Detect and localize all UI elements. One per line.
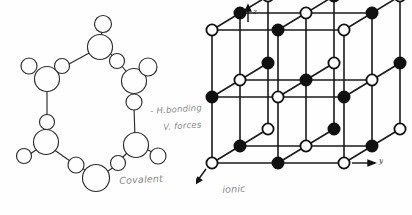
axis-label-z: z — [253, 8, 257, 16]
cation — [366, 7, 377, 18]
hydrogen-atom — [68, 157, 84, 173]
cation — [234, 7, 245, 18]
hydrogen-atom — [40, 115, 55, 130]
anion — [300, 140, 311, 151]
axis-label-y: y — [379, 157, 383, 165]
hydrogen-atom — [55, 59, 70, 74]
axis-label-x: x — [196, 176, 200, 184]
y-axis-arrowhead — [368, 160, 375, 165]
anion — [234, 74, 245, 85]
hydrogen-atom — [110, 54, 125, 69]
cation — [206, 91, 217, 102]
hydrogen-atom — [95, 16, 112, 33]
z-axis-arrowhead — [245, 5, 251, 11]
cation — [234, 140, 245, 151]
hydrogen-atom — [17, 149, 32, 164]
annotation-ionic: ionic — [222, 183, 246, 195]
anion — [272, 91, 283, 102]
anion — [338, 157, 349, 168]
cation — [366, 140, 377, 151]
oxygen-atoms — [34, 35, 149, 192]
anion — [300, 7, 311, 18]
hydrogen-atom — [139, 58, 157, 76]
anion — [262, 123, 273, 134]
diagram-canvas: - H.bonding V. forces Covalent ionic z y… — [0, 0, 412, 215]
cation — [272, 157, 283, 168]
anion — [338, 24, 349, 35]
cation — [394, 57, 405, 68]
hydrogen-atom — [126, 94, 142, 110]
annotation-covalent: Covalent — [119, 173, 163, 186]
oxygen-atom — [83, 165, 110, 192]
cation — [272, 24, 283, 35]
anion — [206, 24, 217, 35]
anion — [394, 123, 405, 134]
cation — [328, 123, 339, 134]
oxygen-atom — [124, 133, 149, 158]
anion — [366, 74, 377, 85]
oxygen-atom — [88, 35, 113, 60]
anion — [394, 0, 405, 2]
hydrogen-atom — [111, 156, 126, 171]
oxygen-atom — [34, 130, 59, 155]
cation — [328, 0, 339, 2]
hydrogen-atom — [21, 58, 37, 74]
anion — [328, 57, 339, 68]
cation — [338, 91, 349, 102]
anion — [262, 0, 273, 2]
cation — [300, 74, 311, 85]
hydrogen-atom — [150, 148, 166, 164]
cation — [262, 57, 273, 68]
lattice-group — [196, 0, 406, 184]
anion — [206, 157, 217, 168]
